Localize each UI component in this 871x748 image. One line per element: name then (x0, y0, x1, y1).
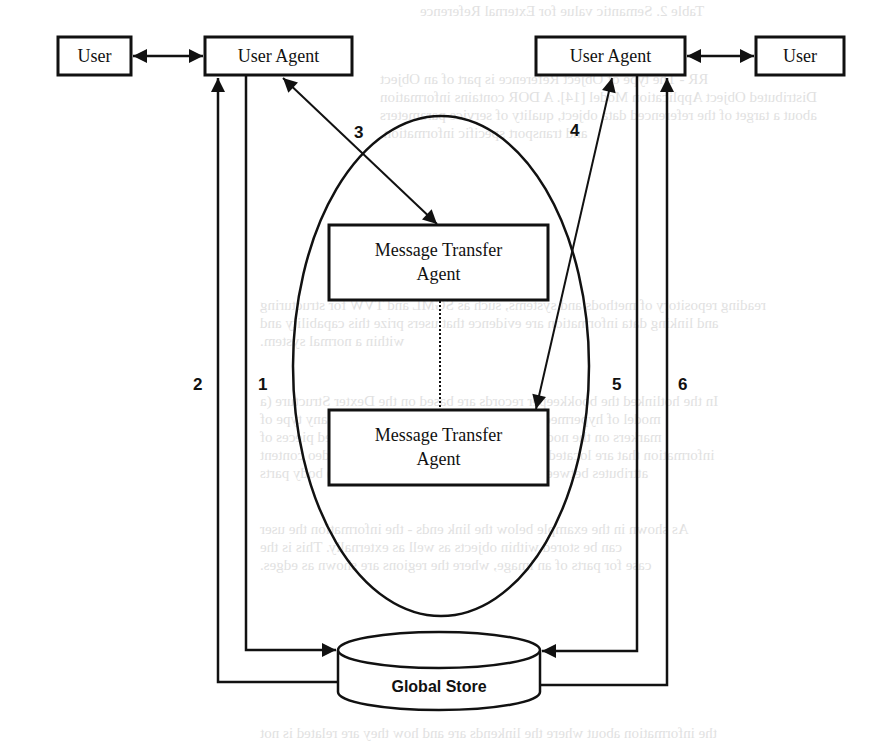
edge-4-label: 4 (570, 121, 580, 140)
edge-2-label: 2 (193, 375, 202, 394)
global-store-node[interactable]: Global Store (338, 632, 540, 710)
user-left-label: User (78, 46, 112, 66)
mta-bottom-label-line1: Message Transfer (375, 425, 503, 445)
user-agent-left-node[interactable]: User Agent (205, 37, 352, 75)
user-agent-right-label: User Agent (570, 46, 651, 66)
edge-6-arrow (540, 78, 667, 685)
edge-1-arrow (246, 76, 336, 650)
edge-2-arrow (218, 78, 338, 682)
user-left-node[interactable]: User (58, 37, 131, 75)
global-store-label: Global Store (391, 678, 486, 695)
edge-3-arrow (283, 78, 437, 224)
mail-system-diagram: User User Agent User Agent User Message … (0, 0, 871, 748)
edge-3-label: 3 (354, 123, 363, 142)
user-agent-left-label: User Agent (238, 46, 319, 66)
mta-top-node[interactable]: Message Transfer Agent (329, 225, 548, 300)
mta-top-label-line2: Agent (417, 264, 461, 284)
mta-bottom-label-line2: Agent (417, 449, 461, 469)
edge-1-label: 1 (258, 375, 267, 394)
user-agent-right-node[interactable]: User Agent (536, 37, 685, 75)
user-right-node[interactable]: User (756, 37, 844, 75)
mta-top-label-line1: Message Transfer (375, 240, 503, 260)
edge-5-label: 5 (612, 375, 621, 394)
edge-6-label: 6 (678, 375, 687, 394)
user-right-label: User (783, 46, 817, 66)
mta-bottom-node[interactable]: Message Transfer Agent (329, 410, 548, 485)
